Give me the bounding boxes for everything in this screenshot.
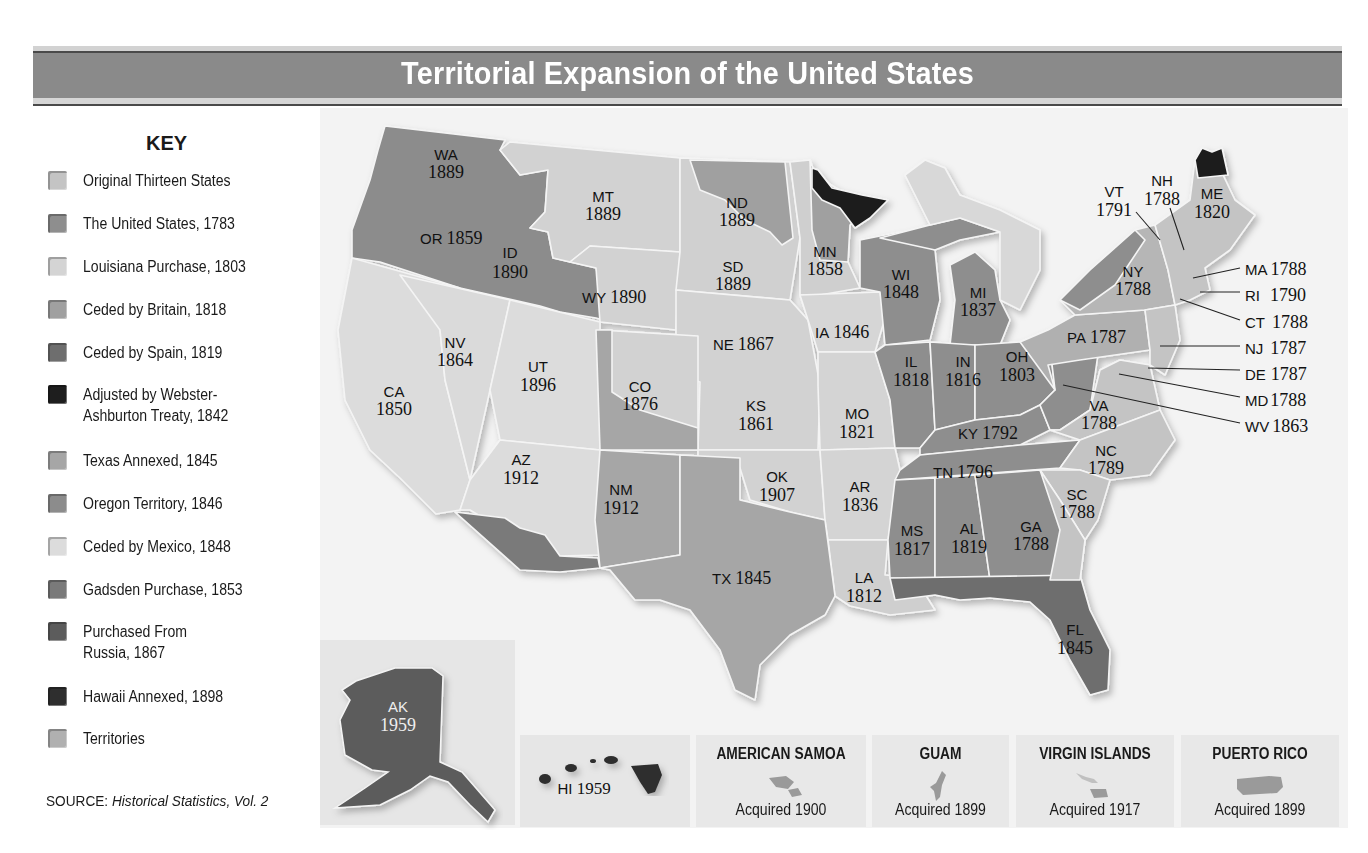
callout-RI: RI1790 (1245, 285, 1306, 305)
svg-text:VT: VT (1104, 183, 1123, 200)
svg-text:1889: 1889 (719, 210, 755, 230)
region-nj-md-de (1145, 305, 1180, 375)
acquired-date: Acquired 1899 (1190, 801, 1329, 819)
label-TX: TX1845 (712, 568, 771, 588)
label-AK-abbr: AK (388, 698, 408, 715)
svg-text:1788: 1788 (1115, 279, 1151, 299)
callout-MA: MA1788 (1245, 259, 1307, 279)
svg-text:1791: 1791 (1096, 200, 1132, 220)
svg-text:1889: 1889 (715, 274, 751, 294)
svg-text:VA: VA (1090, 397, 1109, 414)
svg-text:MO: MO (845, 405, 869, 422)
svg-text:IN: IN (956, 353, 971, 370)
svg-text:KS: KS (746, 397, 766, 414)
svg-text:1890: 1890 (492, 262, 528, 282)
svg-text:1850: 1850 (376, 399, 412, 419)
guam-shape-icon (928, 769, 952, 805)
inset-puerto-rico: PUERTO RICO Acquired 1899 (1181, 735, 1339, 827)
svg-text:1818: 1818 (893, 370, 929, 390)
callout-CT: CT1788 (1245, 312, 1308, 332)
label-OR: OR1859 (420, 228, 483, 248)
svg-text:AL: AL (960, 520, 978, 537)
svg-text:MN: MN (813, 243, 836, 260)
us-map: AK 1959 HI 1959 WA1889 OR1859 ID1890 MT1… (0, 0, 1368, 853)
svg-text:1803: 1803 (999, 365, 1035, 385)
svg-text:1912: 1912 (503, 468, 539, 488)
svg-text:CO: CO (629, 378, 652, 395)
svg-text:SC: SC (1067, 486, 1088, 503)
svg-text:1788: 1788 (1013, 534, 1049, 554)
label-TN: TN1796 (933, 462, 993, 482)
acquired-date: Acquired 1899 (880, 801, 1001, 819)
svg-text:NC: NC (1095, 442, 1117, 459)
svg-text:1889: 1889 (428, 162, 464, 182)
inset-guam: GUAM Acquired 1899 (872, 735, 1009, 827)
svg-text:1889: 1889 (585, 204, 621, 224)
svg-text:1896: 1896 (520, 375, 556, 395)
svg-text:MT: MT (592, 188, 614, 205)
svg-text:MI: MI (970, 284, 987, 301)
svg-text:NM: NM (609, 481, 632, 498)
svg-text:1876: 1876 (622, 394, 658, 414)
svg-text:1845: 1845 (1057, 638, 1093, 658)
svg-text:1837: 1837 (960, 300, 996, 320)
territory-name: AMERICAN SAMOA (708, 745, 854, 763)
territory-name: GUAM (882, 745, 1000, 763)
svg-text:1864: 1864 (437, 350, 473, 370)
label-KY: KY1792 (958, 423, 1018, 443)
svg-text:MS: MS (901, 522, 924, 539)
acquired-date: Acquired 1917 (1025, 801, 1164, 819)
svg-text:NH: NH (1151, 172, 1173, 189)
callout-labels: MA1788 RI1790 CT1788 NJ1787 DE1787 MD178… (1245, 259, 1308, 436)
svg-text:1788: 1788 (1059, 502, 1095, 522)
callout-DE: DE1787 (1245, 364, 1307, 384)
svg-text:NV: NV (445, 334, 466, 351)
svg-text:GA: GA (1020, 518, 1042, 535)
svg-text:1858: 1858 (807, 259, 843, 279)
svg-text:1820: 1820 (1194, 202, 1230, 222)
svg-text:ME: ME (1201, 185, 1224, 202)
callout-MD: MD1788 (1245, 390, 1306, 410)
svg-text:WI: WI (892, 266, 910, 283)
svg-text:LA: LA (855, 569, 873, 586)
svg-text:NY: NY (1123, 263, 1144, 280)
svg-text:OK: OK (766, 468, 788, 485)
svg-text:1912: 1912 (603, 498, 639, 518)
acquired-date: Acquired 1900 (706, 801, 856, 819)
puerto-rico-shape-icon (1233, 773, 1289, 799)
svg-text:1812: 1812 (846, 586, 882, 606)
svg-text:1788: 1788 (1081, 413, 1117, 433)
inset-virgin-islands: VIRGIN ISLANDS Acquired 1917 (1016, 735, 1174, 827)
svg-text:1819: 1819 (951, 537, 987, 557)
svg-text:1861: 1861 (738, 414, 774, 434)
inset-american-samoa: AMERICAN SAMOA Acquired 1900 (696, 735, 866, 827)
svg-text:1816: 1816 (945, 370, 981, 390)
svg-text:ND: ND (726, 194, 748, 211)
svg-text:UT: UT (528, 358, 548, 375)
callout-WV: WV1863 (1245, 416, 1308, 436)
svg-text:1836: 1836 (842, 495, 878, 515)
svg-text:IL: IL (905, 353, 918, 370)
svg-text:AZ: AZ (511, 451, 530, 468)
territory-name: PUERTO RICO (1192, 745, 1328, 763)
samoa-shape-icon (766, 773, 806, 798)
svg-text:ID: ID (503, 244, 518, 261)
label-NE: NE1867 (713, 334, 774, 354)
svg-text:1848: 1848 (883, 282, 919, 302)
svg-text:1821: 1821 (839, 422, 875, 442)
label-AK-year: 1959 (380, 715, 416, 735)
territory-name: VIRGIN ISLANDS (1027, 745, 1163, 763)
label-PA: PA1787 (1067, 327, 1126, 347)
svg-text:1788: 1788 (1144, 189, 1180, 209)
svg-text:OH: OH (1006, 348, 1029, 365)
svg-text:1789: 1789 (1088, 458, 1124, 478)
svg-text:CA: CA (384, 383, 405, 400)
svg-text:FL: FL (1066, 621, 1084, 638)
svg-text:SD: SD (723, 258, 744, 275)
svg-text:WA: WA (434, 146, 458, 163)
svg-text:1817: 1817 (894, 539, 930, 559)
svg-text:1907: 1907 (759, 485, 795, 505)
label-WY: WY1890 (582, 287, 646, 307)
region-maine-top (1195, 148, 1228, 178)
label-IA: IA1846 (815, 322, 869, 342)
